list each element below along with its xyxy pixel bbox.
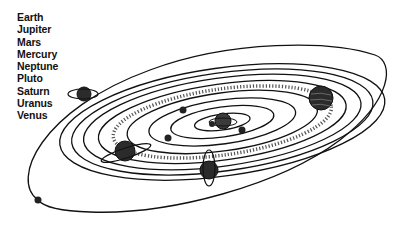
planet-mercury — [209, 121, 215, 127]
planet-mars — [165, 135, 172, 142]
solar-system-diagram — [0, 0, 407, 229]
planet-pluto — [35, 197, 42, 204]
sun — [215, 113, 231, 129]
planet-venus — [239, 127, 246, 134]
planet-earth — [180, 107, 187, 114]
planet-jupiter — [309, 86, 333, 110]
